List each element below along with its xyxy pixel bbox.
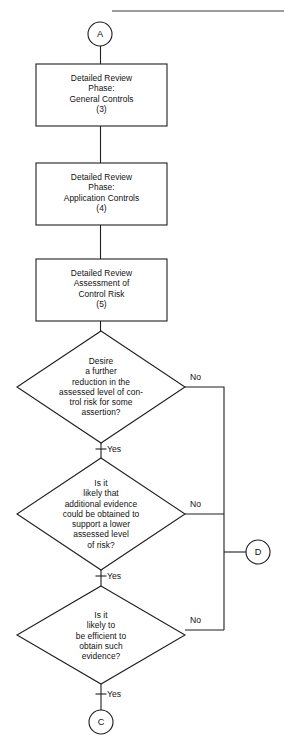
decision-label-desire-further-reduction: Desire a further reduction in the assess… — [17, 356, 185, 418]
process-label-general-controls: Detailed Review Phase: General Controls … — [36, 73, 167, 114]
connector-label-a: A — [87, 21, 113, 47]
connector-label-d: D — [245, 539, 271, 565]
branch-label-decision1-yes: Yes — [107, 444, 121, 454]
flowchart-canvas: A D C Detailed Review Phase: General Con… — [0, 0, 284, 751]
process-label-assessment-control-risk: Detailed Review Assessment of Control Ri… — [36, 268, 167, 309]
branch-label-decision2-no: No — [190, 499, 201, 509]
branch-label-decision3-no: No — [190, 615, 201, 625]
branch-label-decision3-yes: Yes — [107, 689, 121, 699]
branch-label-decision2-yes: Yes — [107, 571, 121, 581]
connector-label-c: C — [88, 709, 114, 735]
decision-label-additional-evidence: Is it likely that additional evidence co… — [17, 478, 185, 550]
branch-label-decision1-no: No — [190, 372, 201, 382]
decision-label-efficient-obtain: Is it likely to be efficient to obtain s… — [17, 610, 185, 661]
process-label-application-controls: Detailed Review Phase: Application Contr… — [36, 172, 167, 213]
